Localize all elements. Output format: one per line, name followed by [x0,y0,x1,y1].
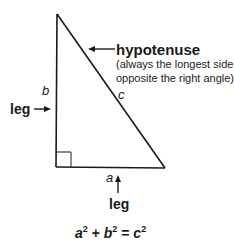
side-a [56,167,165,168]
left-leg-label: leg [10,102,30,116]
side-c-label: c [118,88,125,101]
left-leg-arrow-icon [34,106,51,112]
side-a-label: a [106,171,113,184]
bottom-leg-arrow-icon [115,175,121,193]
equation-plus: + [92,225,100,241]
equation-equals: = [121,225,129,241]
equation-c-exponent: 2 [141,224,146,234]
equation-a: a [75,225,83,241]
bottom-leg-label: leg [109,197,129,211]
hypotenuse-label: hypotenuse [116,42,200,57]
hypotenuse-arrow-icon [88,46,115,52]
equation-a-exponent: 2 [83,224,88,234]
side-c-hypotenuse [57,14,165,168]
side-b-label: b [42,84,49,97]
hypotenuse-note-line1: (always the longest side; [116,59,234,70]
pythagorean-equation: a2 + b2 = c2 [75,225,146,240]
hypotenuse-note-line2: opposite the right angle) [116,73,234,84]
right-angle-marker [56,152,71,167]
side-b [56,14,57,167]
equation-b-exponent: 2 [112,224,117,234]
equation-c: c [133,225,141,241]
